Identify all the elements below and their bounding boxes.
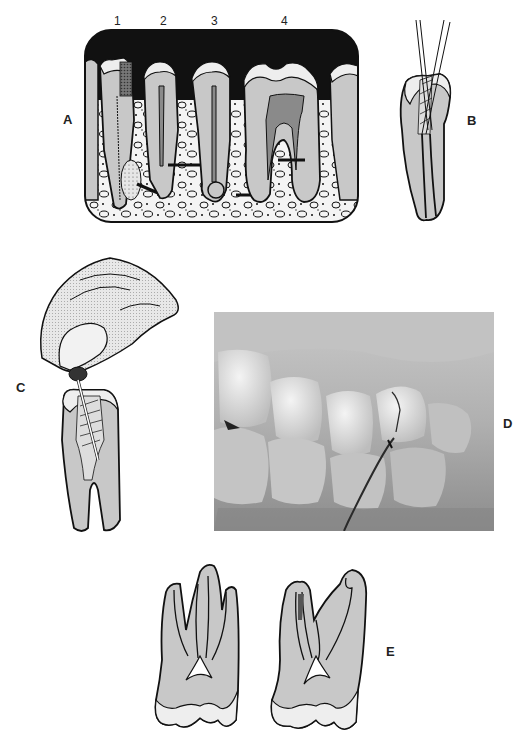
panel-b: B bbox=[370, 0, 532, 230]
sectioned-molars-illustration bbox=[140, 560, 380, 750]
teeth-cross-section-illustration bbox=[0, 0, 370, 230]
panel-c: C bbox=[0, 240, 210, 540]
panel-a: A 1 2 3 4 bbox=[0, 0, 370, 230]
tooth-with-instruments-illustration bbox=[370, 0, 470, 230]
panel-d: D bbox=[214, 312, 532, 542]
fingers-holding-instrument-illustration bbox=[0, 240, 210, 540]
panel-e: E bbox=[140, 560, 420, 750]
clinical-photo-teeth-with-probe bbox=[214, 312, 494, 531]
panel-d-label: D bbox=[503, 416, 512, 431]
panel-e-label: E bbox=[386, 644, 395, 659]
